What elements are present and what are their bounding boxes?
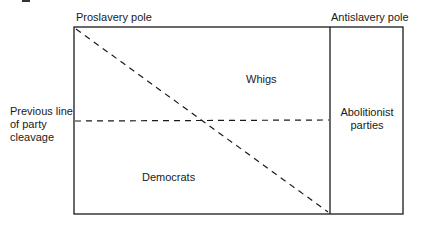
previous-cleavage-label-line-1: Previous line <box>10 105 73 118</box>
proslavery-pole-label: Proslavery pole <box>76 11 152 24</box>
previous-cleavage-label-line-2: of party <box>10 118 73 131</box>
previous-cleavage-label-line-3: cleavage <box>10 131 73 144</box>
abolitionist-label-line-1: Abolitionist <box>332 106 402 119</box>
democrats-region-label: Democrats <box>142 171 195 184</box>
previous-cleavage-label: Previous line of party cleavage <box>10 105 73 144</box>
abolitionist-parties-label: Abolitionist parties <box>332 106 402 132</box>
abolitionist-label-line-2: parties <box>332 119 402 132</box>
whigs-region-label: Whigs <box>246 73 277 86</box>
antislavery-pole-label: Antislavery pole <box>331 11 409 24</box>
